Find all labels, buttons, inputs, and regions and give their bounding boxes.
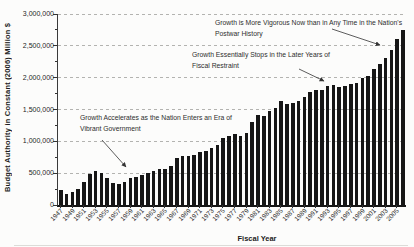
x-tick xyxy=(257,205,258,208)
x-tick xyxy=(130,205,131,208)
bar-2005 xyxy=(395,39,399,205)
y-minor-tick xyxy=(55,189,58,190)
bar-2006 xyxy=(401,30,405,205)
bar-1991 xyxy=(314,90,318,205)
y-major-tick xyxy=(53,205,57,206)
bar-1999 xyxy=(361,78,365,205)
bar-1954 xyxy=(100,173,104,205)
x-tick xyxy=(176,205,177,208)
bar-1983 xyxy=(268,111,272,205)
bar-1966 xyxy=(169,166,173,205)
x-tick xyxy=(304,205,305,208)
bar-1992 xyxy=(320,90,324,205)
bar-1964 xyxy=(158,169,162,205)
bar-series xyxy=(58,14,406,205)
x-tick xyxy=(72,205,73,208)
bar-1978 xyxy=(239,136,243,205)
x-tick xyxy=(327,205,328,208)
x-tick xyxy=(222,205,223,208)
bar-1951 xyxy=(82,182,86,205)
bar-1952 xyxy=(88,174,92,205)
bar-1950 xyxy=(76,189,80,205)
y-tick-label: 3,000,000 xyxy=(23,10,54,17)
plot-area xyxy=(57,14,406,207)
bar-1989 xyxy=(303,97,307,205)
bar-1980 xyxy=(250,122,254,205)
x-tick xyxy=(338,205,339,208)
x-tick xyxy=(385,205,386,208)
bar-1969 xyxy=(187,156,191,205)
bar-1959 xyxy=(129,178,133,205)
y-major-tick xyxy=(53,14,57,15)
bar-1976 xyxy=(227,136,231,205)
bar-1957 xyxy=(117,184,121,205)
y-tick-label: 1,500,000 xyxy=(23,106,54,113)
bar-1997 xyxy=(349,84,353,205)
y-tick-label: 2,000,000 xyxy=(23,74,54,81)
bar-1975 xyxy=(221,138,225,205)
bar-1982 xyxy=(262,116,266,205)
bar-1949 xyxy=(71,192,75,205)
bar-1986 xyxy=(285,104,289,205)
bar-1985 xyxy=(279,101,283,205)
x-tick xyxy=(315,205,316,208)
bar-1971 xyxy=(198,152,202,205)
x-tick xyxy=(280,205,281,208)
bar-1993 xyxy=(326,86,330,205)
y-minor-tick xyxy=(55,125,58,126)
x-tick xyxy=(164,205,165,208)
x-tick xyxy=(188,205,189,208)
bar-1970 xyxy=(192,155,196,205)
annotation-growth-accelerates: Growth Accelerates as the Nation Enters … xyxy=(80,113,232,134)
bar-1995 xyxy=(337,87,341,205)
x-axis-title: Fiscal Year xyxy=(150,234,364,243)
bar-1988 xyxy=(297,101,301,205)
bar-1955 xyxy=(105,178,109,205)
bar-1968 xyxy=(181,156,185,205)
bar-1958 xyxy=(123,182,127,205)
bar-1948 xyxy=(65,194,69,205)
bar-1987 xyxy=(291,103,295,205)
y-axis-title: Budget Authority in Constant (2006) Mill… xyxy=(3,10,12,205)
bar-2002 xyxy=(378,64,382,205)
budget-authority-bar-chart: Budget Authority in Constant (2006) Mill… xyxy=(0,0,414,247)
bar-1947 xyxy=(59,190,63,205)
x-tick xyxy=(292,205,293,208)
x-tick xyxy=(350,205,351,208)
x-tick xyxy=(373,205,374,208)
bar-slot-2006 xyxy=(400,14,406,205)
bar-1998 xyxy=(355,83,359,205)
x-tick xyxy=(141,205,142,208)
bar-1990 xyxy=(308,92,312,205)
y-tick-label: 2,500,000 xyxy=(23,42,54,49)
bar-1961 xyxy=(140,175,144,205)
bar-2004 xyxy=(390,50,394,205)
bar-1953 xyxy=(94,171,98,205)
x-tick xyxy=(246,205,247,208)
x-tick xyxy=(234,205,235,208)
bar-1972 xyxy=(204,151,208,205)
y-minor-tick xyxy=(55,61,58,62)
bar-2003 xyxy=(384,58,388,205)
y-minor-tick xyxy=(55,29,58,30)
annotation-vigorous-growth: Growth is More Vigorous Now than in Any … xyxy=(215,18,407,39)
bar-1974 xyxy=(216,145,220,205)
bar-2000 xyxy=(366,76,370,205)
x-tick xyxy=(153,205,154,208)
x-tick xyxy=(95,205,96,208)
bar-1965 xyxy=(163,169,167,205)
y-major-tick xyxy=(53,77,57,78)
bar-1973 xyxy=(210,148,214,205)
bar-1984 xyxy=(274,108,278,205)
bar-1967 xyxy=(175,158,179,205)
y-tick-label: 1,000,000 xyxy=(23,137,54,144)
bar-1962 xyxy=(146,173,150,205)
y-major-tick xyxy=(53,45,57,46)
bar-1960 xyxy=(134,177,138,205)
bar-1977 xyxy=(233,134,237,205)
x-tick xyxy=(118,205,119,208)
bar-1979 xyxy=(245,133,249,205)
y-major-tick xyxy=(53,141,57,142)
y-tick-label: 500,000 xyxy=(29,169,54,176)
y-minor-tick xyxy=(55,93,58,94)
